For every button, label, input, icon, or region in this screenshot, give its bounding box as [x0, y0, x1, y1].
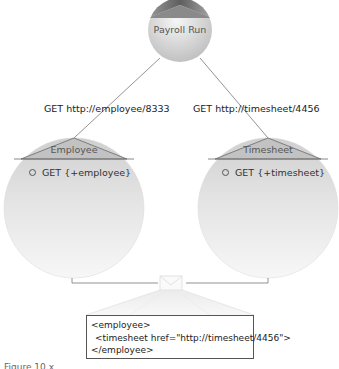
magnification-fan: [86, 290, 254, 315]
timesheet-method-text: GET {+timesheet}: [235, 167, 325, 178]
method-bullet-icon: [29, 169, 36, 176]
employee-title: Employee: [44, 144, 104, 155]
xml-representation-box: <employee> <timesheet href="http://times…: [86, 315, 254, 359]
xml-line: </employee>: [91, 344, 249, 357]
method-bullet-icon: [222, 169, 229, 176]
timesheet-title: Timesheet: [238, 144, 298, 155]
timesheet-get-method: GET {+timesheet}: [222, 167, 325, 178]
employee-get-method: GET {+employee}: [29, 167, 131, 178]
timesheet-node: [198, 138, 338, 278]
xml-line: <employee>: [91, 319, 249, 332]
employee-node: [4, 138, 144, 278]
edge-label-employee: GET http://employee/8333: [44, 103, 170, 114]
zoom-envelope-icon: [160, 276, 182, 290]
diagram-canvas: [0, 0, 339, 369]
edge-label-timesheet: GET http://timesheet/4456: [193, 103, 320, 114]
employee-method-text: GET {+employee}: [42, 167, 131, 178]
edge-line-timesheet: [200, 58, 268, 138]
figure-caption: Figure 10.x: [4, 362, 54, 369]
edge-line-employee: [74, 58, 160, 138]
payroll-run-title: Payroll Run: [149, 24, 211, 35]
xml-line: <timesheet href="http://timesheet/4456">: [91, 332, 249, 345]
